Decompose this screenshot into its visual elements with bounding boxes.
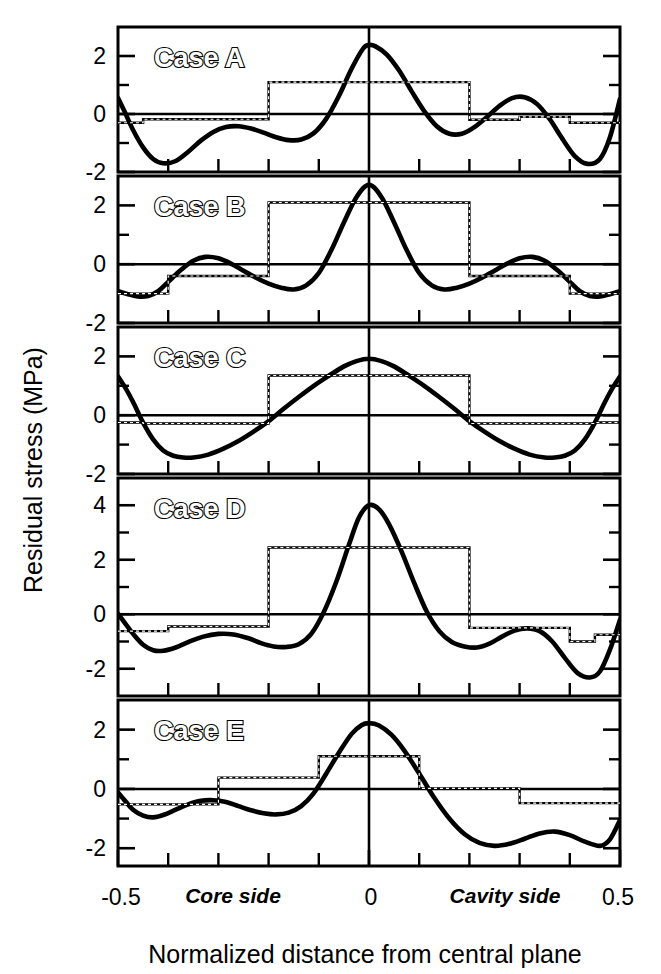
y-tick-label: -2 [86, 656, 106, 682]
y-tick-label: 0 [93, 251, 106, 277]
x-tick-label-mid: 0 [365, 884, 378, 910]
y-tick-label: 0 [93, 776, 106, 802]
y-tick-label: 2 [93, 547, 106, 573]
y-tick-label: 2 [93, 717, 106, 743]
y-tick-label: 2 [93, 343, 106, 369]
case-label: Case A [154, 43, 245, 73]
y-tick-label: -2 [86, 159, 106, 185]
case-label: Case C [154, 343, 246, 373]
case-label: Case B [154, 192, 246, 222]
x-axis-title: Normalized distance from central plane [148, 940, 582, 968]
y-tick-label: -2 [86, 310, 106, 336]
y-tick-label: 4 [93, 492, 106, 518]
y-tick-label: 2 [93, 43, 106, 69]
core-side-annotation: Core side [185, 884, 281, 907]
case-label: Case E [154, 716, 244, 746]
x-tick-label-max: 0.5 [602, 884, 634, 910]
y-tick-label: 0 [93, 101, 106, 127]
cavity-side-annotation: Cavity side [450, 884, 561, 907]
y-tick-label: 0 [93, 601, 106, 627]
y-tick-label: 0 [93, 402, 106, 428]
case-label: Case D [154, 494, 246, 524]
figure-background [0, 0, 661, 974]
y-tick-label: -2 [86, 461, 106, 487]
y-axis-title: Residual stress (MPa) [19, 347, 47, 593]
x-tick-label-min: -0.5 [101, 884, 141, 910]
residual-stress-figure: Residual stress (MPa) Normalized distanc… [0, 0, 661, 974]
y-tick-label: -2 [86, 835, 106, 861]
y-tick-label: 2 [93, 192, 106, 218]
